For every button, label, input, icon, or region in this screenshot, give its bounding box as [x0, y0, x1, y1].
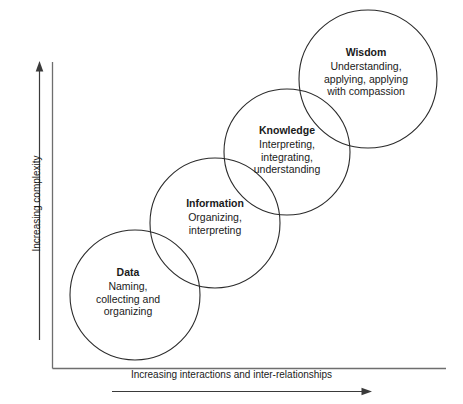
y-axis-arrow-head-icon — [36, 61, 44, 72]
node-title-data: Data — [63, 266, 193, 279]
x-axis-label: Increasing interactions and inter-relati… — [0, 369, 463, 380]
node-label-information: Information Organizing, interpreting — [150, 197, 280, 236]
node-desc-information: Organizing, interpreting — [150, 211, 280, 237]
y-axis-label: Increasing complexity — [31, 124, 42, 284]
node-title-information: Information — [150, 197, 280, 210]
node-desc-data: Naming, collecting and organizing — [63, 280, 193, 318]
node-desc-wisdom: Understanding, applying, applying with c… — [301, 60, 431, 98]
node-title-knowledge: Knowledge — [222, 124, 352, 137]
node-desc-knowledge: Interpreting, integrating, understanding — [222, 138, 352, 176]
node-title-wisdom: Wisdom — [301, 46, 431, 59]
dikw-diagram: Data Naming, collecting and organizing I… — [0, 0, 463, 404]
x-axis-arrow-head-icon — [362, 388, 373, 396]
node-label-wisdom: Wisdom Understanding, applying, applying… — [301, 46, 431, 98]
node-label-knowledge: Knowledge Interpreting, integrating, und… — [222, 124, 352, 176]
node-label-data: Data Naming, collecting and organizing — [63, 266, 193, 318]
